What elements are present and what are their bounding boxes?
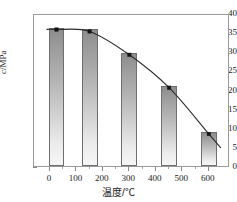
- x-axis-label: 温度/℃: [0, 184, 237, 199]
- x-tick-mark: [102, 167, 103, 171]
- x-minor-tick-mark: [142, 167, 143, 169]
- x-tick-mark: [49, 167, 50, 171]
- x-minor-tick-mark: [115, 167, 116, 169]
- x-tick-mark: [128, 167, 129, 171]
- x-minor-tick-mark: [195, 167, 196, 169]
- x-tick-mark: [155, 167, 156, 171]
- x-tick-label: 600: [194, 174, 222, 183]
- x-tick-label: 200: [88, 174, 116, 183]
- bar: [49, 28, 65, 166]
- x-tick-mark: [208, 167, 209, 171]
- x-tick-label: 100: [61, 174, 89, 183]
- bar: [82, 29, 98, 166]
- y-tick-mark: [33, 167, 37, 168]
- x-tick-label: 400: [141, 174, 169, 183]
- x-tick-mark: [181, 167, 182, 171]
- x-tick-label: 0: [35, 174, 63, 183]
- x-tick-mark: [75, 167, 76, 171]
- x-minor-tick-mark: [62, 167, 63, 169]
- bar: [201, 132, 217, 166]
- x-minor-tick-mark: [168, 167, 169, 169]
- bar: [121, 53, 137, 166]
- x-tick-label: 500: [167, 174, 195, 183]
- y-axis-label-variable: c: [0, 70, 8, 74]
- plot-area: [33, 14, 229, 167]
- x-minor-tick-mark: [89, 167, 90, 169]
- y-axis-label: c/MPa: [0, 50, 8, 74]
- y-axis-label-unit: /MPa: [0, 50, 8, 70]
- bar: [161, 86, 177, 166]
- x-tick-label: 300: [114, 174, 142, 183]
- chart-container: c/MPa 0510152025303540 01002003004005006…: [0, 0, 237, 202]
